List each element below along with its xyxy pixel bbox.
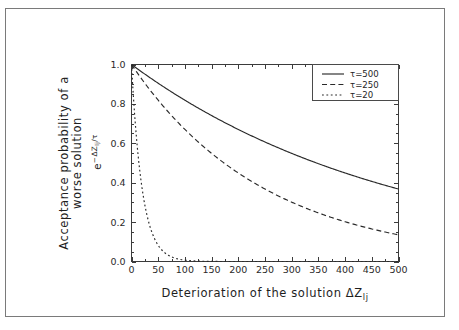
x-tick-label: 450 xyxy=(363,264,381,275)
legend-label-0: τ=500 xyxy=(350,69,379,79)
y-tick-label: 1.0 xyxy=(110,59,125,70)
x-tick-label: 250 xyxy=(256,264,274,275)
y-tick-label: 0.4 xyxy=(110,177,125,188)
figure-canvas: 050100150200250300350400450500 0.00.20.4… xyxy=(0,0,459,330)
legend: τ=500τ=250τ=20 xyxy=(313,65,399,101)
y-axis-title: Acceptance probability of a worse soluti… xyxy=(57,76,84,250)
x-tick-label: 100 xyxy=(176,264,194,275)
y-axis-math-title: e−ΔZlj/τ xyxy=(90,134,103,170)
x-tick-label: 200 xyxy=(229,264,247,275)
x-axis-tick-labels: 050100150200250300350400450500 xyxy=(128,264,407,275)
x-tick-label: 350 xyxy=(309,264,327,275)
x-tick-label: 300 xyxy=(283,264,301,275)
x-tick-label: 500 xyxy=(389,264,407,275)
y-axis-tick-labels: 0.00.20.40.60.81.0 xyxy=(110,59,125,267)
x-tick-label: 0 xyxy=(128,264,134,275)
x-tick-label: 50 xyxy=(152,264,164,275)
y-tick-label: 0.8 xyxy=(110,98,125,109)
plot-svg: 050100150200250300350400450500 0.00.20.4… xyxy=(0,0,459,330)
legend-label-2: τ=20 xyxy=(350,90,373,100)
x-tick-label: 150 xyxy=(203,264,221,275)
x-axis-title: Deterioration of the solution ΔZlj xyxy=(161,286,368,302)
x-tick-label: 400 xyxy=(336,264,354,275)
y-tick-label: 0.6 xyxy=(110,138,125,149)
y-tick-label: 0.2 xyxy=(110,217,125,228)
y-tick-label: 0.0 xyxy=(110,256,125,267)
svg-text:Deterioration of the solution: Deterioration of the solution ΔZlj xyxy=(161,286,368,302)
legend-label-1: τ=250 xyxy=(350,80,379,90)
svg-text:worse solution: worse solution xyxy=(70,117,84,209)
y-axis-minor-ticks xyxy=(132,75,399,253)
svg-text:e−ΔZlj/τ: e−ΔZlj/τ xyxy=(90,134,103,170)
